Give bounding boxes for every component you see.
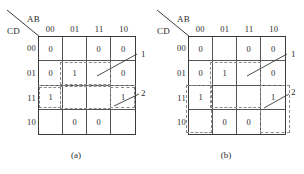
row-headers-b: 00 01 11 10 bbox=[168, 36, 186, 135]
column-header: 00 bbox=[38, 23, 63, 36]
column-headers-a: 00 01 11 10 bbox=[38, 23, 136, 36]
kmap-cell: 1 bbox=[63, 61, 87, 85]
callout-leader-1 bbox=[245, 52, 291, 78]
kmap-cell: 0 bbox=[237, 110, 261, 134]
kmap-cell: 1 bbox=[213, 61, 237, 85]
axis-corner-b: AB CD bbox=[156, 8, 192, 38]
callout-label-1: 1 bbox=[141, 50, 146, 59]
kmap-cell bbox=[39, 110, 63, 134]
kmap-grid-b: 0 0 0 0 1 0 1 1 0 0 bbox=[188, 36, 286, 135]
column-header: 10 bbox=[262, 23, 287, 36]
kmap-cell bbox=[111, 110, 135, 134]
column-header: 00 bbox=[188, 23, 213, 36]
axis-corner-a: AB CD bbox=[6, 8, 42, 38]
axis-label-cd: CD bbox=[157, 26, 170, 36]
callout-leader-2 bbox=[113, 92, 141, 108]
callout-label-2: 2 bbox=[141, 89, 146, 98]
kmap-cell bbox=[213, 37, 237, 61]
karnaugh-map-figure: AB CD 00 01 11 10 00 01 11 10 0 0 0 0 1 … bbox=[0, 0, 304, 174]
column-header: 10 bbox=[112, 23, 137, 36]
callout-label-1: 1 bbox=[291, 50, 296, 59]
kmap-cell: 0 bbox=[87, 110, 111, 134]
row-header: 00 bbox=[168, 36, 186, 61]
row-header: 00 bbox=[18, 36, 36, 61]
row-header: 01 bbox=[18, 61, 36, 86]
callout-leader-2 bbox=[263, 92, 291, 110]
kmap-cell: 0 bbox=[63, 110, 87, 134]
kmap-b: AB CD 00 01 11 10 00 01 11 10 0 0 0 0 1 … bbox=[150, 0, 302, 174]
kmap-cell bbox=[237, 86, 261, 110]
row-header: 10 bbox=[18, 110, 36, 135]
row-header: 11 bbox=[18, 86, 36, 111]
kmap-cell: 1 bbox=[189, 86, 213, 110]
kmap-cell bbox=[63, 37, 87, 61]
kmap-cell bbox=[87, 86, 111, 110]
kmap-cell: 1 bbox=[39, 86, 63, 110]
column-header: 01 bbox=[213, 23, 238, 36]
kmap-cell: 0 bbox=[189, 61, 213, 85]
kmap-cell: 0 bbox=[39, 37, 63, 61]
row-header: 11 bbox=[168, 86, 186, 111]
callout-leader-1 bbox=[95, 52, 141, 78]
kmap-cell bbox=[63, 86, 87, 110]
kmap-cell bbox=[189, 110, 213, 134]
kmap-a: AB CD 00 01 11 10 00 01 11 10 0 0 0 0 1 … bbox=[0, 0, 152, 174]
kmap-cell: 0 bbox=[213, 110, 237, 134]
callout-label-2: 2 bbox=[291, 88, 296, 97]
row-header: 10 bbox=[168, 110, 186, 135]
caption-b: (b) bbox=[150, 150, 302, 160]
caption-a: (a) bbox=[0, 150, 152, 160]
column-header: 01 bbox=[63, 23, 88, 36]
kmap-cell bbox=[213, 86, 237, 110]
kmap-cell: 0 bbox=[189, 37, 213, 61]
row-headers-a: 00 01 11 10 bbox=[18, 36, 36, 135]
column-header: 11 bbox=[237, 23, 262, 36]
row-header: 01 bbox=[168, 61, 186, 86]
axis-label-cd: CD bbox=[7, 26, 20, 36]
column-header: 11 bbox=[87, 23, 112, 36]
column-headers-b: 00 01 11 10 bbox=[188, 23, 286, 36]
kmap-cell bbox=[261, 110, 285, 134]
kmap-cell: 0 bbox=[39, 61, 63, 85]
kmap-grid-a: 0 0 0 0 1 0 1 1 0 0 bbox=[38, 36, 136, 135]
